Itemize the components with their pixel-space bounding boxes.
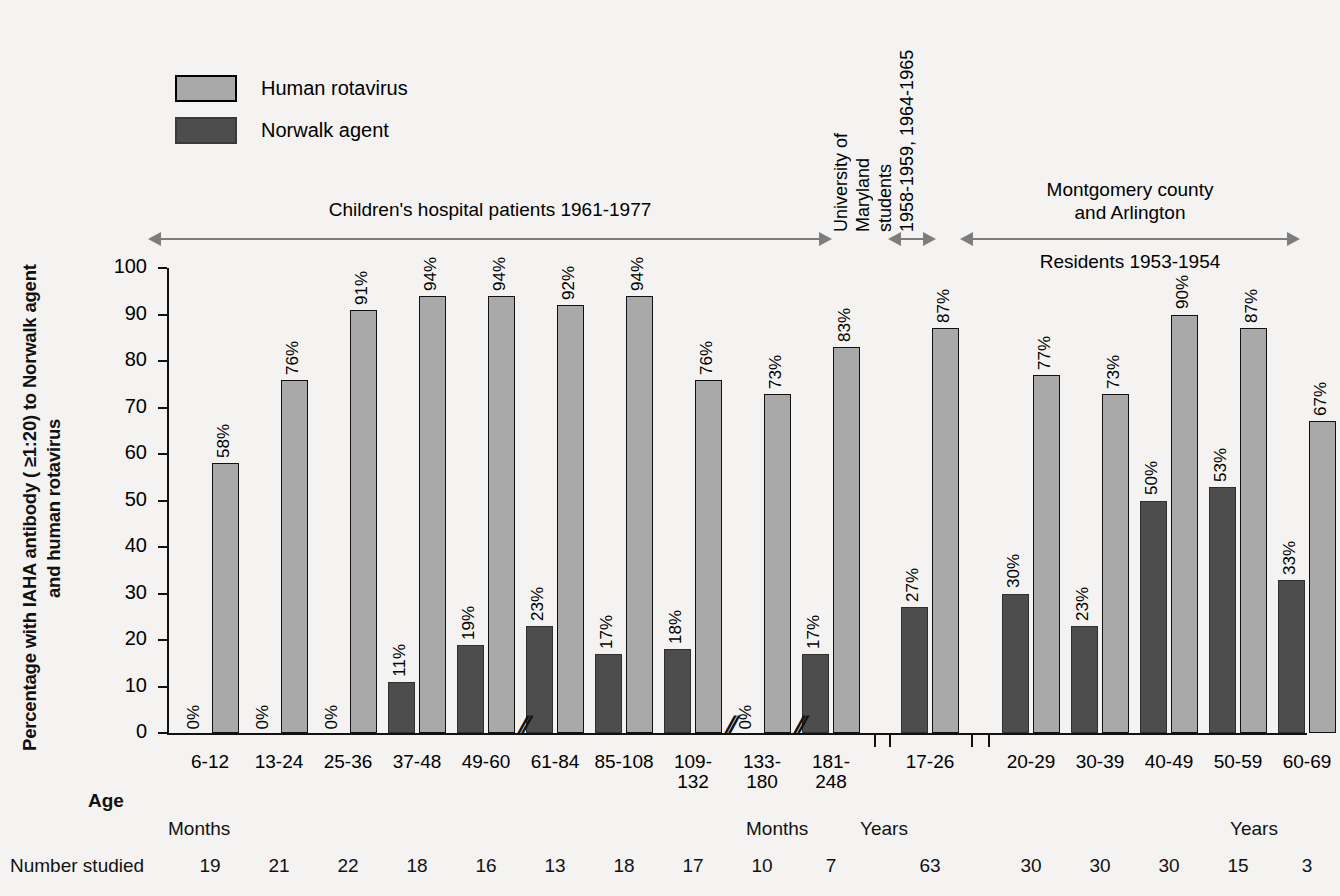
bar-human-rotavirus[interactable]: 87% [932, 328, 959, 733]
x-axis-line [167, 733, 1307, 735]
bar-value-label: 53% [1212, 448, 1229, 482]
bar-rect [419, 296, 446, 733]
bar-value-label: 58% [215, 424, 232, 458]
arrow-right-icon [819, 232, 832, 246]
bar-rect [1071, 626, 1098, 733]
bar-value-label: 94% [422, 257, 439, 291]
bar-group: 0%91% [319, 310, 377, 733]
bar-group: 50%90% [1140, 315, 1198, 734]
bar-group: 30%77% [1002, 375, 1060, 733]
plot-area: 1009080706050403020100 0%58%0%76%0%91%11… [167, 268, 1307, 733]
bar-value-label: 94% [491, 257, 508, 291]
bar-human-rotavirus[interactable]: 90% [1171, 315, 1198, 734]
bar-group: 53%87% [1209, 328, 1267, 733]
bar-norwalk-agent[interactable]: 50% [1140, 501, 1167, 734]
bar-value-label: 73% [767, 355, 784, 389]
bar-norwalk-agent[interactable]: 53% [1209, 487, 1236, 733]
bar-human-rotavirus[interactable]: 94% [419, 296, 446, 733]
bar-rect [932, 328, 959, 733]
bar-group: 17%83% [802, 347, 860, 733]
legend-label-human-rotavirus: Human rotavirus [261, 77, 408, 100]
unit-years-mid: Years [860, 818, 908, 840]
bar-group: 11%94% [388, 296, 446, 733]
bar-value-label: 87% [1243, 289, 1260, 323]
number-studied-value: 63 [880, 855, 980, 877]
legend-label-norwalk-agent: Norwalk agent [261, 119, 389, 142]
bar-norwalk-agent[interactable]: 11% [388, 682, 415, 733]
bar-value-label: 33% [1281, 541, 1298, 575]
annotation-montgomery-line1: Montgomery county [965, 178, 1295, 201]
y-axis-tick-label: 60 [101, 441, 147, 464]
bar-value-label: 0% [254, 705, 271, 730]
y-axis-tick [158, 453, 167, 455]
bar-rect [212, 463, 239, 733]
bar-value-label: 91% [353, 271, 370, 305]
bar-rect [1171, 315, 1198, 734]
legend-swatch-human-rotavirus [175, 75, 237, 102]
bar-rect [1209, 487, 1236, 733]
panel-endcap [889, 733, 891, 747]
bar-value-label: 67% [1312, 382, 1329, 416]
bar-human-rotavirus[interactable]: 73% [764, 394, 791, 733]
y-axis-tick [158, 732, 167, 734]
bar-norwalk-agent[interactable]: 23% [1071, 626, 1098, 733]
y-axis-tick-label: 10 [101, 674, 147, 697]
bar-human-rotavirus[interactable]: 76% [281, 380, 308, 733]
bar-human-rotavirus[interactable]: 67% [1309, 421, 1336, 733]
bar-rect [457, 645, 484, 733]
unit-years-right: Years [1230, 818, 1278, 840]
bar-norwalk-agent[interactable]: 17% [802, 654, 829, 733]
bar-value-label: 87% [935, 289, 952, 323]
annotation-university-maryland-line4: 1958-1959, 1964-1965 [894, 28, 920, 232]
arrow-right-icon [1287, 232, 1300, 246]
legend-item-human-rotavirus: Human rotavirus [175, 72, 408, 104]
bar-human-rotavirus[interactable]: 77% [1033, 375, 1060, 733]
bar-rect [557, 305, 584, 733]
bar-rect [350, 310, 377, 733]
bar-value-label: 17% [598, 615, 615, 649]
bar-value-label: 92% [560, 266, 577, 300]
bar-group: 17%94% [595, 296, 653, 733]
bar-human-rotavirus[interactable]: 87% [1240, 328, 1267, 733]
bar-norwalk-agent[interactable]: 19% [457, 645, 484, 733]
bar-rect [664, 649, 691, 733]
bar-value-label: 30% [1005, 554, 1022, 588]
chart-legend: Human rotavirus Norwalk agent [175, 72, 408, 156]
y-axis-title-text: Percentage with IAHA antibody ( ≥1:20) t… [18, 248, 66, 768]
bar-human-rotavirus[interactable]: 91% [350, 310, 377, 733]
bar-human-rotavirus[interactable]: 73% [1102, 394, 1129, 733]
bar-group: 19%94% [457, 296, 515, 733]
bar-norwalk-agent[interactable]: 33% [1278, 580, 1305, 733]
bar-human-rotavirus[interactable]: 92% [557, 305, 584, 733]
bar-norwalk-agent[interactable]: 17% [595, 654, 622, 733]
arrow-line [899, 238, 925, 240]
x-axis-label: 17-26 [880, 752, 980, 772]
y-axis-tick [158, 593, 167, 595]
legend-item-norwalk-agent: Norwalk agent [175, 114, 408, 146]
bar-norwalk-agent[interactable]: 18% [664, 649, 691, 733]
bar-rect [595, 654, 622, 733]
bar-rect [1002, 594, 1029, 734]
bar-human-rotavirus[interactable]: 76% [695, 380, 722, 733]
number-studied-label: Number studied [10, 855, 144, 877]
bar-human-rotavirus[interactable]: 94% [626, 296, 653, 733]
bar-value-label: 19% [460, 606, 477, 640]
bar-rect [1240, 328, 1267, 733]
bar-group: 0%73% [733, 394, 791, 733]
x-axis-label: 181-248 [781, 752, 881, 792]
arrow-right-icon [923, 232, 936, 246]
bar-value-label: 23% [529, 587, 546, 621]
bar-human-rotavirus[interactable]: 58% [212, 463, 239, 733]
bar-rect [802, 654, 829, 733]
bar-human-rotavirus[interactable]: 83% [833, 347, 860, 733]
bar-value-label: 94% [629, 257, 646, 291]
bar-rect [764, 394, 791, 733]
bar-norwalk-agent[interactable]: 30% [1002, 594, 1029, 734]
y-axis-tick [158, 500, 167, 502]
arrow-line [159, 238, 821, 240]
bar-value-label: 83% [836, 308, 853, 342]
bar-norwalk-agent[interactable]: 27% [901, 607, 928, 733]
bar-human-rotavirus[interactable]: 94% [488, 296, 515, 733]
y-axis-tick [158, 267, 167, 269]
